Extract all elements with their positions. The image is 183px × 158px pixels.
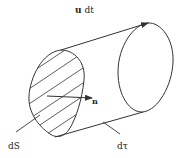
velocity-label: u dt [75, 5, 94, 15]
normal-label: n [92, 96, 98, 106]
surface-hatching [20, 40, 95, 148]
cylinder-bottom-edge [55, 112, 143, 137]
flux-cylinder-diagram: u dt n dS dτ [0, 0, 183, 158]
surface-label: dS [8, 141, 20, 151]
velocity-arrow [61, 23, 148, 50]
volume-label: dτ [117, 141, 128, 151]
surface-element-ds [29, 50, 84, 136]
displaced-surface [118, 23, 173, 112]
ds-pointer-line [16, 115, 40, 132]
dtau-pointer-line [103, 122, 120, 134]
normal-arrow [47, 96, 92, 98]
